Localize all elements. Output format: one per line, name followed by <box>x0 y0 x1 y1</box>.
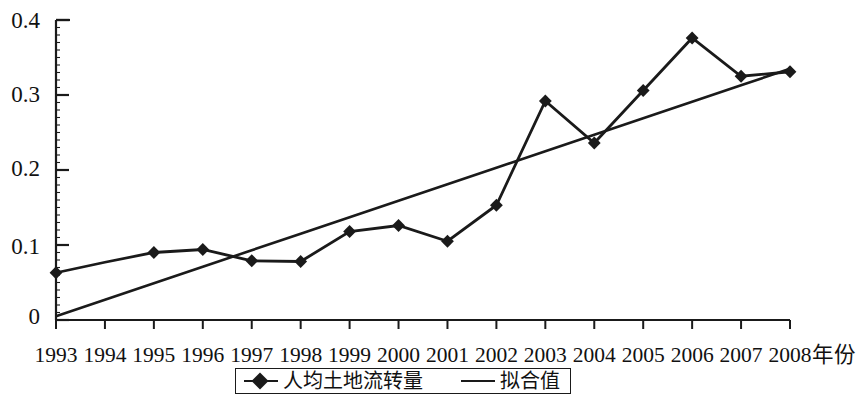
x-tick-label: 2008 <box>766 340 814 370</box>
data-point-marker <box>196 243 209 256</box>
x-tick-label: 2003 <box>521 340 569 370</box>
x-tick-label: 1998 <box>277 340 325 370</box>
data-point-marker <box>343 225 356 238</box>
x-tick-label: 2000 <box>375 340 423 370</box>
data-point-marker <box>294 255 307 268</box>
series-per-capita-land-transfer <box>50 32 797 280</box>
data-point-marker <box>392 219 405 232</box>
data-point-marker <box>245 254 258 267</box>
legend-label: 拟合值 <box>500 371 560 391</box>
x-tick-label: 1995 <box>130 340 178 370</box>
x-tick-label: 1996 <box>179 340 227 370</box>
x-tick-label: 2005 <box>619 340 667 370</box>
plain-line-icon <box>461 374 495 388</box>
x-tick-label: 2002 <box>472 340 520 370</box>
x-tick-label: 1997 <box>228 340 276 370</box>
x-axis-ticks <box>56 320 790 329</box>
legend-entry-fitted-value: 拟合值 <box>461 371 560 391</box>
line-with-diamond-marker-icon <box>244 374 278 388</box>
series-fitted-line <box>56 69 790 317</box>
x-tick-label: 1994 <box>81 340 129 370</box>
data-line-path <box>56 38 790 273</box>
fitted-line-path <box>56 69 790 317</box>
chart-legend: 人均土地流转量 拟合值 <box>235 368 571 394</box>
legend-label: 人均土地流转量 <box>283 371 423 391</box>
axis-spines <box>56 20 790 320</box>
data-point-marker <box>784 65 797 78</box>
x-tick-label: 1993 <box>32 340 80 370</box>
x-tick-label: 2004 <box>570 340 618 370</box>
data-point-marker <box>50 266 63 279</box>
x-axis-title: 年份 <box>812 340 856 370</box>
x-tick-label: 2007 <box>717 340 765 370</box>
legend-entry-per-capita-land-transfer: 人均土地流转量 <box>244 371 423 391</box>
x-tick-label: 1999 <box>326 340 374 370</box>
x-tick-label: 2001 <box>423 340 471 370</box>
data-point-marker <box>147 246 160 259</box>
plot-area <box>0 0 812 340</box>
x-tick-label: 2006 <box>668 340 716 370</box>
